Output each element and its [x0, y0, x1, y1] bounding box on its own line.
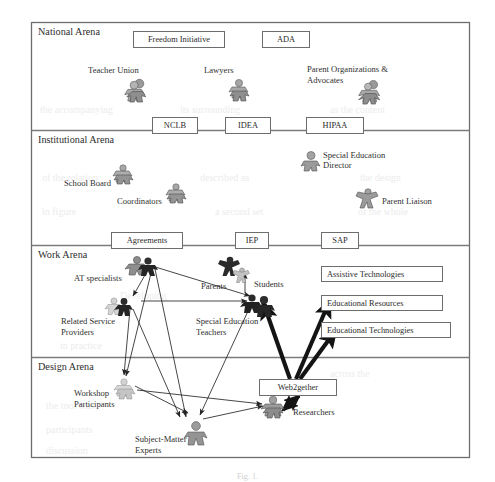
group-figures-icon-workshop-participants: [114, 379, 135, 399]
group-figures-icon-parent-organizations: [359, 80, 380, 104]
figure-caption: Fig. 1.: [0, 472, 495, 481]
label-special-education-teachers-line2: Teachers: [196, 327, 226, 337]
single-figure-icon-special-education-teachers: [240, 294, 275, 317]
star-figure-icon-parent-liaison: [356, 189, 378, 208]
group-figures-icon-teacher-union: [125, 79, 146, 102]
box-nclb[interactable]: NCLB: [152, 117, 198, 134]
box-web2gether[interactable]: Web2gether: [259, 379, 337, 396]
label-special-education-director-line1: Special Education: [323, 150, 385, 160]
label-workshop-participants-line2: Participants: [74, 399, 115, 409]
label-subject-matter-experts-line1: Subject-Matter: [135, 434, 187, 444]
label-special-education-director-line2: Director: [323, 160, 352, 170]
label-related-service-providers-line1: Related Service: [61, 316, 115, 326]
group-figures-icon-coordinators: [166, 184, 186, 203]
box-educational-technologies[interactable]: Educational Technologies: [321, 322, 451, 338]
box-assistive-technologies[interactable]: Assistive Technologies: [321, 266, 443, 282]
label-special-education-teachers-line1: Special Education: [196, 316, 258, 326]
box-freedom-initiative[interactable]: Freedom Initiative: [133, 31, 225, 48]
arena-title-institutional: Institutional Arena: [38, 134, 114, 145]
box-agreements[interactable]: Agreements: [111, 232, 183, 249]
group-figures-icon-school-board: [113, 165, 133, 184]
label-related-service-providers-line2: Providers: [61, 327, 94, 337]
single-figure-icon-special-education-director: [301, 152, 320, 172]
thin-connection-arrows: [124, 266, 263, 419]
arena-title-national: National Arena: [38, 26, 100, 37]
box-iep[interactable]: IEP: [235, 232, 269, 249]
label-parent-organizations-line1: Parent Organizations &: [307, 64, 388, 74]
box-hipaa[interactable]: HIPAA: [306, 117, 364, 134]
box-educational-resources[interactable]: Educational Resources: [321, 295, 443, 311]
label-researchers: Researchers: [293, 407, 335, 417]
label-workshop-participants-line1: Workshop: [74, 388, 109, 398]
group-figures-icon-related-service-providers: [105, 298, 133, 316]
label-coordinators: Coordinators: [117, 196, 162, 206]
figure-canvas: discussionparticipantsthe tool wasacross…: [0, 0, 495, 482]
star-figure-icon-students: [233, 268, 250, 283]
box-sap[interactable]: SAP: [321, 232, 359, 249]
arena-title-design: Design Arena: [38, 361, 94, 372]
group-figures-icon-researchers: [261, 396, 284, 418]
label-subject-matter-experts-line2: Experts: [135, 445, 161, 455]
thick-connection-arrows: [263, 300, 336, 379]
label-parents: Parents: [201, 281, 226, 291]
label-lawyers: Lawyers: [204, 65, 234, 75]
group-figures-icon-lawyers: [229, 79, 249, 101]
label-school-board: School Board: [64, 178, 111, 188]
arena-title-work: Work Arena: [38, 249, 87, 260]
label-parent-organizations-line2: Advocates: [307, 75, 343, 85]
label-teacher-union: Teacher Union: [88, 65, 139, 75]
single-figure-icon-subject-matter-experts: [184, 422, 207, 445]
label-at-specialists: AT specialists: [74, 273, 122, 283]
group-figures-icon-at-specialists: [125, 256, 158, 276]
label-parent-liaison: Parent Liaison: [382, 196, 432, 206]
box-idea[interactable]: IDEA: [225, 117, 271, 134]
box-ada[interactable]: ADA: [262, 31, 310, 48]
label-students: Students: [254, 279, 284, 289]
